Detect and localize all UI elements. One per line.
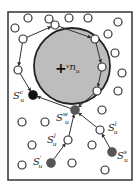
boundary-node: [51, 21, 59, 29]
sensor-node: [114, 87, 122, 95]
sensor-node: [65, 14, 73, 22]
sensor-node: [88, 141, 96, 149]
sensor-node: [28, 141, 36, 149]
label-Sc: Scu: [13, 88, 24, 103]
label-Sl_left: Slu: [47, 132, 57, 147]
node-Sl_left: [64, 136, 72, 144]
boundary-node: [19, 35, 27, 43]
sensor-node: [68, 159, 76, 167]
sensor-node: [11, 24, 19, 32]
node-Sl_right: [96, 126, 104, 134]
sensor-node: [41, 118, 49, 126]
label-Sl_right: Slu: [108, 120, 118, 135]
label-Ss: Ssu: [117, 148, 128, 163]
boundary-node: [98, 63, 106, 71]
node-Sprime: [47, 159, 55, 167]
node-Ss: [108, 148, 116, 156]
boundary-node: [91, 35, 99, 43]
sensor-node: [114, 18, 122, 26]
sensor-node: [111, 49, 119, 57]
node-Sw: [71, 106, 79, 114]
label-Sw: Swu: [56, 110, 69, 125]
sensor-node: [101, 166, 109, 174]
sensor-node: [18, 118, 26, 126]
center-plus-icon: +: [55, 60, 67, 76]
sensor-node: [84, 14, 92, 22]
network-diagram: ScuSwuSluSluSsuS'u +vnu: [0, 0, 139, 187]
label-Sprime: S'u: [33, 154, 43, 169]
boundary-node: [93, 87, 101, 95]
sensor-node: [104, 30, 112, 38]
sensor-node: [98, 106, 106, 114]
sensor-node: [24, 14, 32, 22]
node-Sc: [29, 91, 37, 99]
boundary-node: [14, 66, 22, 74]
sensor-node: [18, 161, 26, 169]
sensor-node: [118, 69, 126, 77]
